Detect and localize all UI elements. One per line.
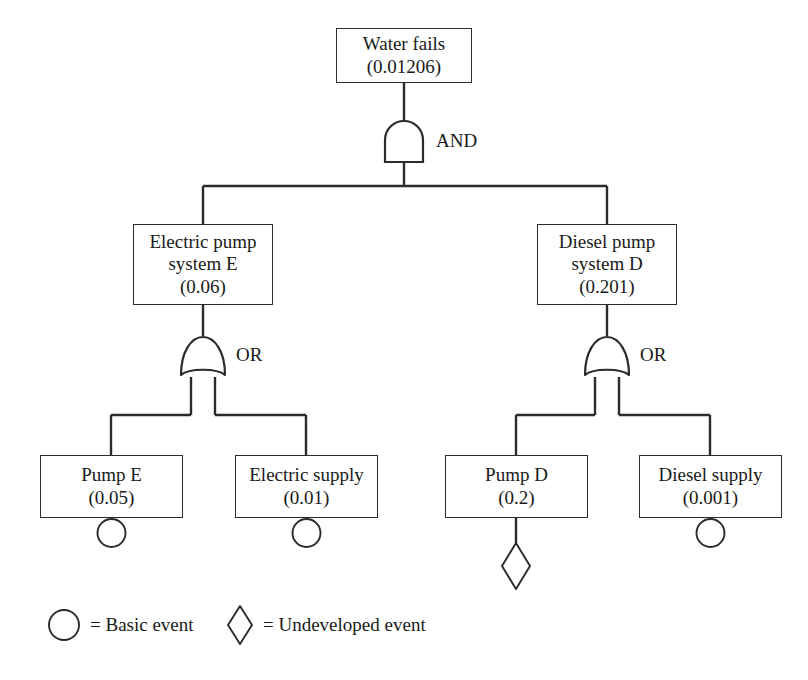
or-gate-diesel[interactable] xyxy=(581,334,633,379)
node-electric-pump-probability: (0.06) xyxy=(180,276,226,298)
or-gate-electric[interactable] xyxy=(177,334,229,379)
node-diesel-supply-probability: (0.001) xyxy=(683,487,738,509)
node-pump-e-label: Pump E xyxy=(81,464,142,486)
connector-wires xyxy=(0,0,808,680)
node-pump-e-probability: (0.05) xyxy=(89,487,135,509)
legend-circle-icon xyxy=(47,608,81,642)
undeveloped-event-diamond-pump-d xyxy=(498,541,534,591)
node-water-fails[interactable]: Water fails (0.01206) xyxy=(336,28,472,83)
legend-undeveloped-event-text: = Undeveloped event xyxy=(263,614,426,636)
and-gate-label: AND xyxy=(436,130,477,152)
legend-basic-event: = Basic event xyxy=(47,608,194,642)
or-gate-diesel-label: OR xyxy=(640,344,666,366)
node-diesel-supply[interactable]: Diesel supply (0.001) xyxy=(639,455,782,518)
node-diesel-pump-line2: system D xyxy=(571,253,642,275)
and-gate[interactable] xyxy=(381,119,427,164)
node-water-fails-probability: (0.01206) xyxy=(367,56,441,78)
node-pump-d-label: Pump D xyxy=(485,464,548,486)
node-pump-d[interactable]: Pump D (0.2) xyxy=(445,455,588,518)
node-diesel-pump-probability: (0.201) xyxy=(579,276,634,298)
node-diesel-supply-label: Diesel supply xyxy=(659,464,763,486)
basic-event-circle-electric-supply xyxy=(291,517,322,549)
node-electric-pump-system-e[interactable]: Electric pump system E (0.06) xyxy=(133,224,273,305)
basic-event-circle-pump-e xyxy=(96,517,127,549)
fault-tree-diagram: Water fails (0.01206) AND Electric pump … xyxy=(0,0,808,680)
node-electric-pump-line1: Electric pump xyxy=(149,231,256,253)
basic-event-circle-diesel-supply xyxy=(695,517,726,549)
legend-undeveloped-event: = Undeveloped event xyxy=(226,604,426,646)
node-electric-supply-label: Electric supply xyxy=(249,464,364,486)
node-electric-supply[interactable]: Electric supply (0.01) xyxy=(235,455,378,518)
legend-diamond-icon xyxy=(226,604,254,646)
node-electric-pump-line2: system E xyxy=(168,253,237,275)
node-diesel-pump-system-d[interactable]: Diesel pump system D (0.201) xyxy=(537,224,677,305)
node-pump-e[interactable]: Pump E (0.05) xyxy=(40,455,183,518)
or-gate-electric-label: OR xyxy=(236,344,262,366)
node-pump-d-probability: (0.2) xyxy=(498,487,534,509)
node-electric-supply-probability: (0.01) xyxy=(284,487,330,509)
node-water-fails-label: Water fails xyxy=(363,33,445,55)
node-diesel-pump-line1: Diesel pump xyxy=(559,231,656,253)
legend-basic-event-text: = Basic event xyxy=(90,614,194,636)
